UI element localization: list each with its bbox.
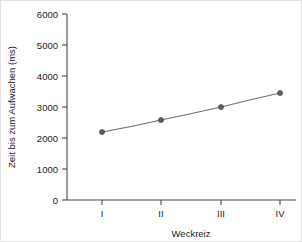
y-tick-label-6000: 6000 (37, 9, 58, 20)
data-point-3 (218, 104, 223, 109)
series-line-zeit (102, 93, 280, 132)
line-chart: 6000 5000 4000 3000 2000 1000 0 I II III… (1, 1, 302, 242)
x-tick-label-4: IV (276, 208, 286, 219)
x-axis-title: Weckreiz (172, 228, 211, 239)
data-point-2 (158, 117, 163, 122)
chart-figure: 6000 5000 4000 3000 2000 1000 0 I II III… (0, 0, 302, 242)
y-tick-label-3000: 3000 (37, 102, 58, 113)
x-tick-label-2: II (158, 208, 163, 219)
y-tick-label-4000: 4000 (37, 71, 58, 82)
y-tick-label-0: 0 (53, 195, 58, 206)
data-point-4 (277, 90, 282, 95)
y-axis-title: Zeit bis zum Aufwachen (ms) (6, 46, 17, 168)
x-tick-label-3: III (217, 208, 225, 219)
y-tick-label-5000: 5000 (37, 40, 58, 51)
y-tick-label-2000: 2000 (37, 133, 58, 144)
y-tick-label-1000: 1000 (37, 164, 58, 175)
x-tick-label-1: I (101, 208, 104, 219)
data-point-1 (99, 129, 104, 134)
